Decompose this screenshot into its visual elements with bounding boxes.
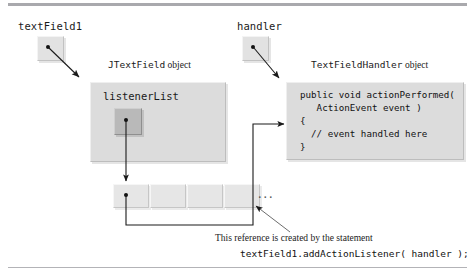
code-line-3: // event handled here (300, 127, 427, 141)
listener-array-ellipsis: ... (258, 186, 275, 202)
reference-box-textfield1 (37, 36, 64, 61)
caption-word-object-jtextfield: object (168, 60, 191, 70)
variable-label-handler: handler (237, 20, 282, 32)
annotation-line-2: textField1.addActionListener( handler ); (240, 248, 469, 259)
annotation-pointer-arrow (256, 206, 290, 232)
diagram-canvas: textField1 handler JTextField object lis… (0, 0, 475, 275)
caption-word-object-handler: object (405, 60, 428, 70)
code-line-2: { (300, 114, 306, 128)
reference-box-handler (242, 36, 269, 61)
code-line-4: } (300, 140, 306, 154)
reference-dot-textfield1 (46, 45, 50, 49)
code-line-1: ActionEvent event ) (300, 101, 422, 115)
listener-array (113, 184, 261, 208)
annotation-line-1: This reference is created by the stateme… (215, 233, 373, 243)
code-line-0: public void actionPerformed( (300, 88, 455, 102)
variable-label-textfield1: textField1 (18, 20, 82, 32)
top-rule (8, 3, 467, 6)
reference-dot-handler (251, 45, 255, 49)
caption-textfieldhandler-object: TextFieldHandler object (311, 59, 428, 70)
listener-array-cell (187, 184, 223, 208)
class-name-jtextfield: JTextField (108, 59, 165, 70)
class-name-textfieldhandler: TextFieldHandler (311, 59, 403, 70)
listenerlist-slot (114, 108, 142, 135)
bottom-rule (8, 267, 467, 268)
listener-array-cell (150, 184, 186, 208)
field-label-listenerlist: listenerList (103, 90, 179, 102)
listener-array-cell (113, 184, 149, 208)
listenerlist-slot-dot (124, 118, 128, 122)
listener-array-cell-dot (124, 193, 128, 197)
caption-jtextfield-object: JTextField object (108, 59, 191, 70)
listener-array-cell (224, 184, 260, 208)
